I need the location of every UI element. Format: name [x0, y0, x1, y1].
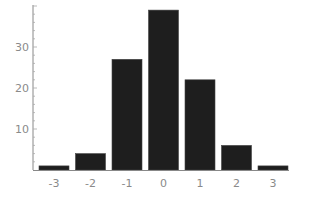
bar-0 — [149, 10, 179, 170]
x-tick-label: 3 — [270, 177, 277, 190]
x-tick-label: 2 — [233, 177, 240, 190]
bar-3 — [258, 166, 288, 170]
y-tick-label: 20 — [15, 82, 29, 95]
x-tick-label: -1 — [122, 177, 133, 190]
bar--1 — [112, 59, 142, 170]
y-tick-label: 30 — [15, 41, 29, 54]
histogram-chart: 102030 -3-2-10123 — [0, 0, 317, 197]
x-tick-label: 0 — [160, 177, 167, 190]
x-tick-label: 1 — [197, 177, 204, 190]
bar-1 — [185, 80, 215, 170]
bar-2 — [222, 145, 252, 170]
x-axis-ticks: -3-2-10123 — [49, 177, 277, 190]
y-axis-ticks: 102030 — [15, 6, 37, 162]
x-tick-label: -2 — [85, 177, 96, 190]
x-tick-label: -3 — [49, 177, 60, 190]
bars-group — [39, 10, 288, 170]
bar--2 — [76, 154, 106, 170]
bar--3 — [39, 166, 69, 170]
y-tick-label: 10 — [15, 123, 29, 136]
